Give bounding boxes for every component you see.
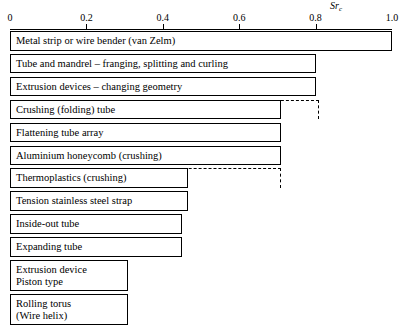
bar-label-line1: Rolling torus (16, 298, 71, 309)
bar-label: Extrusion devicePiston type (16, 264, 87, 288)
bar-row: Aluminium honeycomb (crushing) (10, 146, 392, 166)
x-axis-title: Src (330, 0, 342, 15)
bar-row: Rolling torus(Wire helix) (10, 294, 392, 325)
bar-label-line1: Extrusion devices – changing geometry (16, 81, 182, 92)
bar-label: Aluminium honeycomb (crushing) (16, 150, 162, 162)
bar-label: Flattening tube array (16, 127, 103, 139)
bar-label-line2: Piston type (16, 276, 87, 288)
bar-label-line1: Crushing (folding) tube (16, 104, 115, 115)
bar-label-line1: Thermoplastics (crushing) (16, 172, 127, 183)
bar-label: Tube and mandrel – franging, splitting a… (16, 58, 228, 70)
x-axis-tick-label: 0.6 (233, 12, 246, 23)
bar-row: Crushing (folding) tube (10, 100, 392, 120)
bar-row: Extrusion devices – changing geometry (10, 77, 392, 97)
bar-label: Tension stainless steel strap (16, 195, 132, 207)
bar-row: Metal strip or wire bender (van Zelm) (10, 31, 392, 51)
bar-label-line1: Inside-out tube (16, 218, 79, 229)
x-axis-tick-label: 1.0 (386, 12, 399, 23)
bar-label-line1: Expanding tube (16, 241, 82, 252)
bar-label: Crushing (folding) tube (16, 104, 115, 116)
bar-row: Expanding tube (10, 237, 392, 257)
bar-row: Tension stainless steel strap (10, 191, 392, 211)
bar-label: Extrusion devices – changing geometry (16, 81, 182, 93)
bar-label: Rolling torus(Wire helix) (16, 298, 71, 322)
bar-row: Tube and mandrel – franging, splitting a… (10, 54, 392, 74)
x-axis-title-subscript: c (339, 5, 342, 13)
bar-row: Flattening tube array (10, 123, 392, 143)
bar-label: Thermoplastics (crushing) (16, 172, 127, 184)
x-axis-tick-label: 0.4 (157, 12, 170, 23)
bar-label-line1: Extrusion device (16, 264, 87, 275)
bar-label-line1: Metal strip or wire bender (van Zelm) (16, 35, 175, 46)
x-axis-title-base: Sr (330, 0, 339, 11)
x-axis-line (10, 29, 392, 30)
bar-label: Expanding tube (16, 241, 82, 253)
bars-container: Metal strip or wire bender (van Zelm)Tub… (0, 31, 416, 318)
bar-label: Metal strip or wire bender (van Zelm) (16, 35, 175, 47)
bar-label-line1: Aluminium honeycomb (crushing) (16, 150, 162, 161)
bar-label: Inside-out tube (16, 218, 79, 230)
bar-label-line1: Flattening tube array (16, 127, 103, 138)
x-axis: Src 00.20.40.60.81.0 (0, 0, 416, 32)
bar-row: Inside-out tube (10, 214, 392, 234)
bar-label-line1: Tube and mandrel – franging, splitting a… (16, 58, 228, 69)
bar-label-line1: Tension stainless steel strap (16, 195, 132, 206)
bar-label-line2: (Wire helix) (16, 310, 71, 322)
bar-row: Extrusion devicePiston type (10, 260, 392, 291)
x-axis-tick-label: 0 (8, 12, 13, 23)
bar-row: Thermoplastics (crushing) (10, 168, 392, 188)
x-axis-tick-label: 0.2 (80, 12, 93, 23)
x-axis-tick-label: 0.8 (309, 12, 322, 23)
